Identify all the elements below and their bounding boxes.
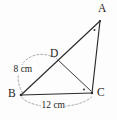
angle-mark-a-icon xyxy=(94,29,96,31)
vertex-label-b: B xyxy=(8,88,16,100)
vertex-point-a xyxy=(99,20,101,22)
segment-side-bc xyxy=(21,93,92,95)
vertex-label-d: D xyxy=(50,48,58,60)
segment-side-ca xyxy=(92,21,100,93)
angle-mark-c-icon xyxy=(83,89,85,91)
dimension-label-bc: 12 cm xyxy=(41,101,65,111)
segment-cevian-dc xyxy=(58,60,91,91)
vertex-label-a: A xyxy=(98,3,106,15)
vertex-point-c xyxy=(91,92,93,94)
vertex-label-c: C xyxy=(97,87,105,99)
dimension-label-bd: 8 cm xyxy=(13,65,33,75)
segment-side-ab xyxy=(21,21,100,95)
geometry-diagram: A B C D 8 cm 12 cm xyxy=(0,0,117,120)
vertex-point-b xyxy=(20,94,23,97)
